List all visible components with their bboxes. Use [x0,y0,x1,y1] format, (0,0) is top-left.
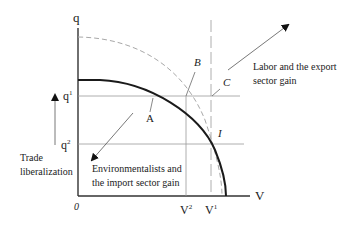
trade-environment-diagram: q V 0 q1 q2 V2 V1 A B C I Labor and the … [0,0,355,226]
environment-gain-arrow [92,113,133,160]
point-a-label: A [146,112,154,124]
point-i-label: I [217,127,223,139]
labor-gain-text-1: Labor and the export [253,61,337,72]
point-c-label: C [223,76,231,88]
labor-gain-text-2: sector gain [253,75,297,86]
c-pointer [212,89,220,96]
v2-label: V2 [180,203,193,217]
origin-label: 0 [74,201,79,212]
point-b-label: B [194,56,201,68]
trade-liberalization-text-2: liberalization [20,166,73,177]
q2-label: q2 [61,138,71,152]
y-axis-label: q [73,10,80,25]
v1-label: V1 [205,203,218,217]
trade-liberalization-text-1: Trade [20,152,44,163]
environment-gain-text-2: the import sector gain [92,177,179,188]
x-axis-label: V [255,188,265,203]
environment-gain-text-1: Environmentalists and [92,163,182,174]
a-pointer [150,98,153,112]
q1-label: q1 [63,89,73,103]
